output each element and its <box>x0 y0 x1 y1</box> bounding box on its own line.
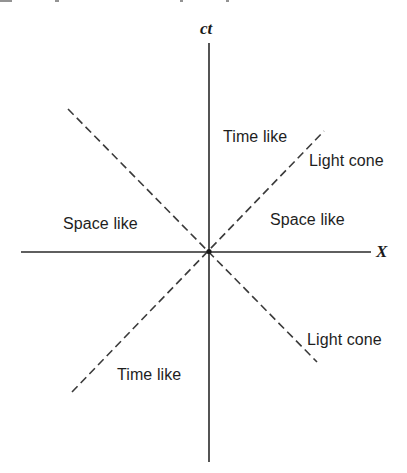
spacetime-diagram <box>0 0 407 473</box>
light-cone-line-descending <box>68 109 317 362</box>
ct-axis-label: ct <box>200 20 212 37</box>
time-like-lower-label: Time like <box>117 367 181 383</box>
light-cone-lower-label: Light cone <box>307 332 382 348</box>
time-like-upper-label: Time like <box>223 129 287 145</box>
space-like-left-label: Space like <box>63 216 138 232</box>
origin-point <box>206 249 211 254</box>
light-cone-line-ascending <box>72 131 324 392</box>
space-like-right-label: Space like <box>270 212 345 228</box>
light-cone-upper-label: Light cone <box>309 153 384 169</box>
x-axis-label: X <box>376 243 387 260</box>
